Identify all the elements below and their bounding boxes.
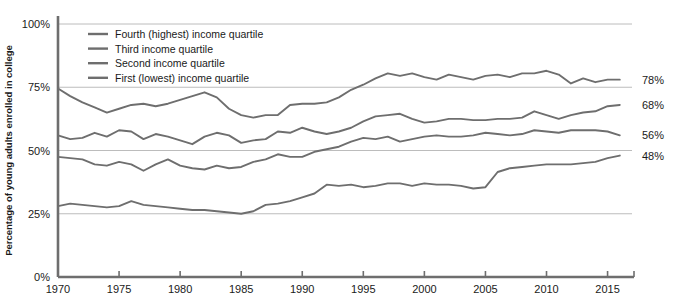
y-tick-label-50: 50% xyxy=(28,145,50,157)
x-tick-label-2005: 2005 xyxy=(473,283,497,295)
y-tick-label-75: 75% xyxy=(28,81,50,93)
series-end-label-1: 68% xyxy=(642,99,664,111)
x-tick-label-1970: 1970 xyxy=(46,283,70,295)
y-axis-title: Percentage of young adults enrolled in c… xyxy=(3,45,14,256)
x-tick-label-2000: 2000 xyxy=(412,283,436,295)
chart-plot-area: 1970197519801985199019952000200520102015… xyxy=(0,0,675,307)
college-enrollment-chart: 1970197519801985199019952000200520102015… xyxy=(0,0,675,307)
legend-label-1: Third income quartile xyxy=(115,43,213,55)
x-tick-label-2015: 2015 xyxy=(595,283,619,295)
series-line-3 xyxy=(58,156,620,214)
series-end-label-0: 78% xyxy=(642,74,664,86)
y-tick-label-100: 100% xyxy=(22,18,50,30)
legend-label-0: Fourth (highest) income quartile xyxy=(115,28,263,40)
x-tick-label-2010: 2010 xyxy=(534,283,558,295)
x-tick-label-1980: 1980 xyxy=(168,283,192,295)
x-tick-label-1985: 1985 xyxy=(229,283,253,295)
x-tick-label-1995: 1995 xyxy=(351,283,375,295)
legend-label-2: Second income quartile xyxy=(115,57,225,69)
y-tick-label-25: 25% xyxy=(28,208,50,220)
series-line-1 xyxy=(58,105,620,144)
legend-label-3: First (lowest) income quartile xyxy=(115,72,249,84)
x-tick-label-1990: 1990 xyxy=(290,283,314,295)
series-end-label-3: 48% xyxy=(642,150,664,162)
y-tick-label-0: 0% xyxy=(34,271,50,283)
x-tick-label-1975: 1975 xyxy=(107,283,131,295)
series-end-label-2: 56% xyxy=(642,129,664,141)
